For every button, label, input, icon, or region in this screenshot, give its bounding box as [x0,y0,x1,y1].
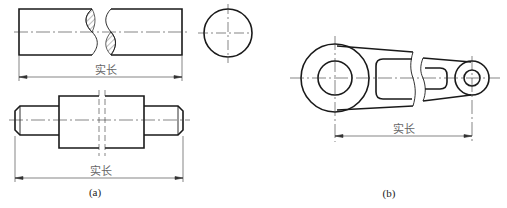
rod-dimension-label: 实长 [393,120,415,136]
bottom-dimension-label: 实长 [90,162,112,178]
technical-drawing [0,0,507,208]
stepped-shaft-view [9,90,190,156]
rod-end-view-circle [198,4,252,63]
top-dimension-label: 实长 [95,61,117,77]
broken-rod-view [14,9,190,55]
figure-b-caption: (b) [383,187,396,199]
figure-a-caption: (a) [89,186,101,198]
